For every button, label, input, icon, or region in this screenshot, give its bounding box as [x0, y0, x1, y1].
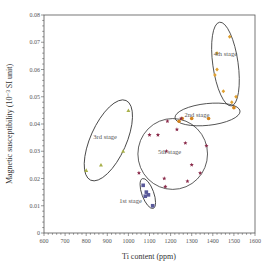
- y-tick-label: 0: [37, 230, 40, 236]
- y-tick-label: 0.02: [30, 176, 41, 182]
- stage-ellipse: [207, 20, 244, 107]
- stage-label: 2nd stage: [185, 111, 210, 118]
- star-marker: [162, 176, 166, 180]
- x-tick-label: 1600: [249, 238, 261, 244]
- x-tick-label: 1000: [122, 238, 134, 244]
- stage-label: 4th stage: [214, 50, 237, 57]
- y-tick-label: 0.01: [30, 203, 41, 209]
- stage-ellipse: [74, 93, 142, 187]
- star-marker: [183, 141, 187, 145]
- star-marker: [147, 133, 151, 137]
- stage-label: 3rd stage: [93, 133, 117, 140]
- stage-labels: 1st stage2nd stage3rd stage4th stage5th …: [93, 50, 237, 204]
- star-marker: [156, 133, 160, 137]
- x-tick-label: 1400: [207, 238, 219, 244]
- y-tick-label: 0.07: [30, 39, 41, 45]
- star-marker: [190, 163, 194, 167]
- y-tick-label: 0.06: [30, 67, 41, 73]
- x-tick-label: 600: [40, 238, 49, 244]
- triangle-marker: [99, 163, 103, 167]
- plot-border: [44, 15, 255, 233]
- diamond-marker: [215, 68, 219, 72]
- plot-frame: [44, 15, 255, 233]
- x-tick-label: 900: [103, 238, 112, 244]
- circle-marker: [232, 106, 236, 110]
- y-tick-label: 0.03: [30, 148, 41, 154]
- square-marker: [151, 204, 155, 208]
- y-axis-title: Magnetic susceptibility (10⁻³ SI unit): [5, 64, 14, 184]
- square-marker: [141, 184, 145, 188]
- diamond-marker: [230, 100, 234, 104]
- diamond-marker: [222, 89, 226, 93]
- x-tick-label: 1500: [228, 238, 240, 244]
- star-marker: [137, 171, 141, 175]
- x-axis-title: Ti content (ppm): [122, 252, 176, 261]
- x-tick-label: 800: [82, 238, 91, 244]
- scatter-chart: 6007008009001000110012001300140015001600…: [0, 0, 276, 275]
- triangle-marker: [126, 108, 130, 112]
- star-marker: [175, 127, 179, 131]
- data-points: [84, 35, 238, 208]
- star-marker: [185, 179, 189, 183]
- y-tick-label: 0.08: [30, 12, 41, 18]
- square-marker: [143, 194, 147, 198]
- y-tick-label: 0.05: [30, 94, 41, 100]
- square-marker: [147, 193, 151, 197]
- x-tick-label: 700: [61, 238, 70, 244]
- x-tick-label: 1100: [144, 238, 156, 244]
- triangle-marker: [121, 149, 125, 153]
- y-tick-label: 0.04: [30, 121, 41, 127]
- stage-label: 1st stage: [119, 197, 142, 204]
- star-marker: [163, 184, 167, 188]
- x-tick-label: 1200: [165, 238, 177, 244]
- axis-ticks: 6007008009001000110012001300140015001600…: [30, 12, 262, 244]
- star-marker: [204, 144, 208, 148]
- x-tick-label: 1300: [186, 238, 198, 244]
- diamond-marker: [213, 73, 217, 77]
- star-marker: [165, 119, 169, 123]
- stage-label: 5th stage: [158, 148, 181, 155]
